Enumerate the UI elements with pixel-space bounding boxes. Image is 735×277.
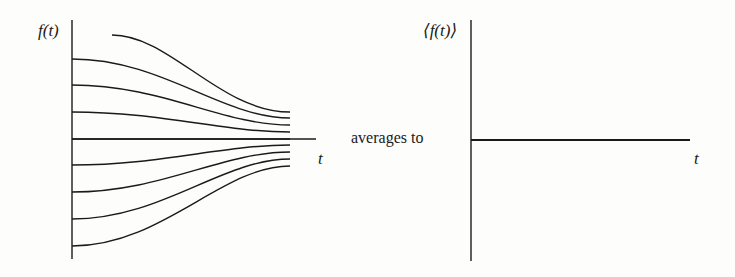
left-y-label: f(t) xyxy=(38,22,59,39)
curve xyxy=(72,166,290,246)
right-y-label: ⟨f(t)⟩ xyxy=(423,22,457,39)
curve xyxy=(72,85,290,125)
averaging-figure: f(t) t averages to ⟨f(t)⟩ t xyxy=(0,0,735,277)
left-x-label: t xyxy=(318,150,323,167)
right-x-label: t xyxy=(694,150,699,167)
curve xyxy=(112,35,290,112)
fluctuating-curves xyxy=(72,35,290,246)
curve xyxy=(72,59,290,118)
averages-to-text: averages to xyxy=(351,130,423,146)
